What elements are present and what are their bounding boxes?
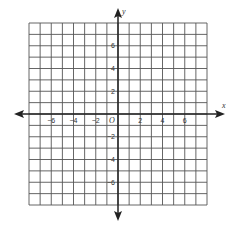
y-tick-label: −6 <box>107 179 115 186</box>
y-tick-label: −4 <box>107 156 115 163</box>
x-tick-label: −6 <box>47 117 55 124</box>
y-axis-label: y <box>121 7 126 16</box>
origin-label: O <box>109 116 115 125</box>
x-tick-label: −4 <box>70 117 78 124</box>
coordinate-plane: −6−4−2246642−2−4−6 x y O <box>0 0 236 226</box>
axes <box>14 8 225 221</box>
y-tick-label: 4 <box>111 65 115 72</box>
x-tick-label: 4 <box>161 117 165 124</box>
x-tick-label: −2 <box>92 117 100 124</box>
x-tick-label: 2 <box>138 117 142 124</box>
y-tick-label: 6 <box>111 42 115 49</box>
y-tick-label: 2 <box>111 88 115 95</box>
x-tick-label: 6 <box>183 117 187 124</box>
x-axis-label: x <box>221 101 226 110</box>
y-tick-label: −2 <box>107 133 115 140</box>
